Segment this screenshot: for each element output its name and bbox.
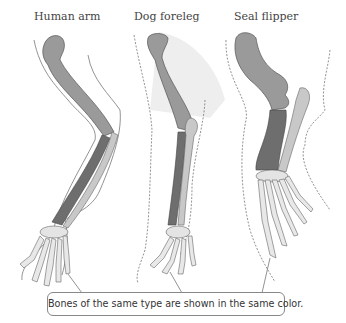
dog-foreleg-illustration	[134, 32, 225, 283]
human-arm-illustration	[20, 36, 120, 286]
limb-illustration	[0, 0, 346, 323]
seal-flipper-illustration	[226, 33, 330, 282]
caption-box: Bones of the same type are shown in the …	[47, 292, 285, 316]
